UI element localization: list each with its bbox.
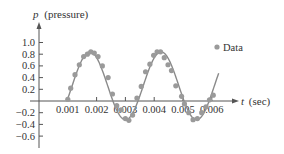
data-point <box>139 84 144 89</box>
data-point <box>77 62 82 67</box>
data-point <box>199 110 204 115</box>
legend-marker-icon <box>214 44 219 49</box>
y-tick-label: −0.2 <box>16 107 35 118</box>
data-point <box>169 68 174 73</box>
x-axis-unit: (sec) <box>249 95 271 108</box>
x-axis-arrow-icon <box>232 99 239 104</box>
data-point <box>134 95 139 100</box>
x-tick-label: 0.004 <box>142 104 166 115</box>
y-axis-arrow-icon <box>37 22 42 29</box>
data-point <box>182 101 187 106</box>
data-point <box>65 97 70 102</box>
y-tick-label: −0.6 <box>16 131 35 142</box>
axes <box>30 22 239 148</box>
y-tick-label: 0.8 <box>22 49 35 60</box>
y-axis-title: p (pressure) <box>32 8 89 21</box>
x-axis-var: t <box>241 95 245 107</box>
y-axis-unit: (pressure) <box>44 8 88 21</box>
data-point <box>100 63 105 68</box>
data-point <box>207 97 212 102</box>
y-tick-label: 0.2 <box>22 84 35 95</box>
data-point <box>203 104 208 109</box>
pressure-time-chart: 1.00.80.60.40.2−0.2−0.4−0.6 0.0010.0020.… <box>0 0 284 154</box>
y-axis-var: p <box>32 8 39 20</box>
data-point <box>173 83 178 88</box>
data-point <box>72 72 77 77</box>
data-point <box>195 116 200 121</box>
y-tick-label: 0.4 <box>22 72 36 83</box>
data-point <box>68 86 73 91</box>
data-point <box>179 94 184 99</box>
data-point <box>158 49 163 54</box>
data-point <box>106 75 111 80</box>
x-tick-label: 0.002 <box>85 104 109 115</box>
data-point <box>95 54 100 59</box>
data-point <box>130 112 135 117</box>
data-point <box>143 69 148 74</box>
data-point <box>211 93 216 98</box>
x-ticks: 0.0010.0020.0030.0040.0050.006 <box>56 97 224 115</box>
data-point <box>165 62 170 67</box>
data-point <box>118 107 123 112</box>
data-point <box>126 118 131 123</box>
x-axis-title: t (sec) <box>241 95 271 108</box>
data-point <box>186 110 191 115</box>
y-tick-label: 0.6 <box>22 60 35 71</box>
data-point <box>162 55 167 60</box>
data-point <box>147 62 152 67</box>
legend: Data <box>214 42 243 53</box>
legend-label: Data <box>223 42 243 53</box>
data-point <box>114 103 119 108</box>
x-tick-label: 0.001 <box>56 104 80 115</box>
data-point <box>110 91 115 96</box>
y-tick-label: 1.0 <box>22 37 35 48</box>
y-tick-label: −0.4 <box>16 119 36 130</box>
